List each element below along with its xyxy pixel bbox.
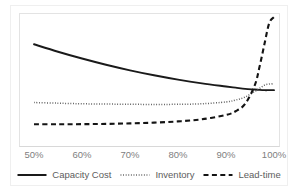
series-line-capacity-cost: [34, 44, 274, 90]
chart-canvas: [19, 13, 280, 147]
x-axis-tick-70: 70%: [120, 148, 139, 162]
legend-label-inventory: Inventory: [155, 169, 194, 181]
x-axis-tick-60: 60%: [72, 148, 91, 162]
dashed-line-swatch: [203, 171, 233, 179]
legend-item-capacity-cost[interactable]: Capacity Cost: [17, 169, 111, 181]
x-axis-tick-100: 100%: [262, 148, 286, 162]
plot-wrapper: [19, 13, 280, 147]
legend-label-capacity-cost: Capacity Cost: [52, 169, 111, 181]
legend-item-lead-time[interactable]: Lead-time: [203, 169, 280, 181]
legend-label-lead-time: Lead-time: [238, 169, 280, 181]
chart-legend: Capacity CostInventoryLead-time: [11, 166, 287, 184]
chart-figure: 50%60%70%80%90%100% Capacity CostInvento…: [10, 5, 288, 186]
x-axis-tick-80: 80%: [168, 148, 187, 162]
dotted-line-swatch: [120, 171, 150, 179]
series-line-lead-time: [34, 17, 274, 124]
x-axis-tick-labels: 50%60%70%80%90%100%: [19, 148, 280, 166]
x-axis-tick-90: 90%: [216, 148, 235, 162]
solid-line-swatch: [17, 171, 47, 179]
legend-item-inventory[interactable]: Inventory: [120, 169, 194, 181]
x-axis-tick-50: 50%: [24, 148, 43, 162]
series-line-inventory: [34, 84, 274, 105]
